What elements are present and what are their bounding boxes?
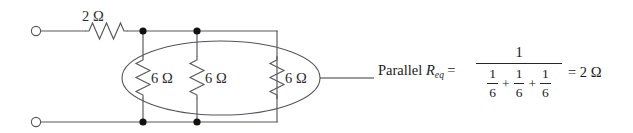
denominator-term-1-denominator: 6 xyxy=(487,84,498,101)
denominator-term-2: 1 6 xyxy=(514,66,525,101)
parallel-resistor-2-label: 6 Ω xyxy=(205,71,227,86)
annotation-equals-sign: = xyxy=(447,62,455,78)
denominator-term-1-numerator: 1 xyxy=(487,66,498,83)
formula-result: = 2 Ω xyxy=(568,64,601,81)
series-resistor-2ohm xyxy=(85,23,128,39)
junction-node-bottom-left xyxy=(139,118,146,125)
annotation-subscript-eq: eq xyxy=(435,70,444,80)
main-fraction: 1 1 6 + 1 6 + 1 6 xyxy=(476,44,562,101)
annotation-symbol-r: R xyxy=(426,62,435,78)
denominator-term-3: 1 6 xyxy=(540,66,551,101)
terminal-bottom-left xyxy=(31,117,40,126)
denominator-term-1: 1 6 xyxy=(487,66,498,101)
denominator-term-3-numerator: 1 xyxy=(540,66,551,83)
parallel-resistor-1-label: 6 Ω xyxy=(151,71,173,86)
denominator-term-2-numerator: 1 xyxy=(514,66,525,83)
junction-node-top-middle xyxy=(193,27,200,34)
series-resistor-label: 2 Ω xyxy=(82,9,104,24)
annotation-prefix: Parallel xyxy=(378,62,426,78)
junction-node-bottom-middle xyxy=(193,118,200,125)
parallel-resistor-3-label: 6 Ω xyxy=(285,71,307,86)
parallel-resistor-2-6ohm xyxy=(190,56,204,99)
main-fraction-numerator: 1 xyxy=(513,44,524,63)
circuit-figure: 2 Ω 6 Ω 6 Ω 6 Ω Parallel Req= 1 1 6 + 1 … xyxy=(0,0,633,133)
parallel-req-annotation: Parallel Req= xyxy=(378,62,455,80)
denominator-term-3-denominator: 6 xyxy=(540,84,551,101)
terminal-top-left xyxy=(31,26,40,35)
main-fraction-denominator: 1 6 + 1 6 + 1 6 xyxy=(485,64,553,101)
parallel-resistance-formula: 1 1 6 + 1 6 + 1 6 xyxy=(476,44,601,101)
formula-operator-1: + xyxy=(498,76,514,92)
formula-operator-2: + xyxy=(524,76,540,92)
parallel-resistor-1-6ohm xyxy=(136,56,150,99)
junction-node-top-left xyxy=(139,27,146,34)
denominator-term-2-denominator: 6 xyxy=(514,84,525,101)
